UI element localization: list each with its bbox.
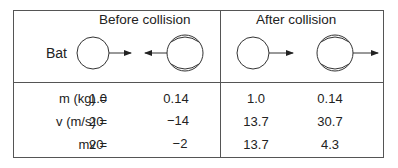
cell-mass-bat-after: 1.0: [226, 92, 286, 106]
bat-before-icon: [77, 37, 131, 69]
cell-velocity-bat-after: 13.7: [226, 115, 286, 129]
cell-momentum-bat-after: 13.7: [226, 138, 286, 152]
cell-momentum-bat-before: 20: [89, 138, 103, 152]
cell-mass-ball-after: 0.14: [300, 92, 360, 106]
ball-after-icon: [317, 35, 378, 71]
cell-momentum-ball-after: 4.3: [300, 138, 360, 152]
cell-velocity-ball-before: −14: [148, 114, 208, 128]
cell-momentum-ball-before: −2: [150, 137, 210, 151]
cell-velocity-bat-before: 20: [89, 115, 103, 129]
cell-velocity-ball-after: 30.7: [300, 115, 360, 129]
ball-before-icon: [145, 35, 203, 71]
cell-mass-bat-before: 1.0: [89, 92, 107, 106]
bat-after-icon: [237, 37, 293, 69]
cell-mass-ball-before: 0.14: [146, 92, 206, 106]
